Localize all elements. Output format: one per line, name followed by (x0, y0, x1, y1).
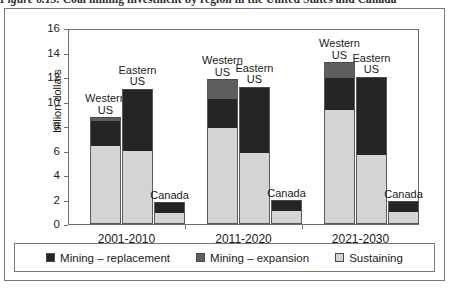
y-tick-label: 10 (34, 97, 60, 109)
legend-swatch-icon (46, 253, 55, 262)
bar-canada (271, 200, 302, 225)
segment-expansion (207, 79, 238, 99)
legend-item: Mining – expansion (196, 252, 309, 264)
bar-western-us (207, 79, 238, 224)
segment-sustaining (239, 153, 270, 224)
segment-sustaining (154, 213, 185, 224)
bar-western-us (90, 117, 121, 224)
bar-western-us (324, 62, 355, 224)
legend-item: Sustaining (335, 252, 403, 264)
figure-caption-number: Figure 6.13. (0, 0, 60, 5)
segment-replacement (90, 121, 121, 146)
y-tick-label: 14 (34, 48, 60, 60)
y-tick-label: 12 (34, 72, 60, 84)
y-tick-label: 4 (34, 170, 60, 182)
y-tick-label: 8 (34, 121, 60, 133)
segment-expansion (324, 62, 355, 78)
segment-sustaining (324, 110, 355, 224)
segment-replacement (388, 201, 419, 212)
x-tick-mark (302, 225, 303, 229)
y-tick-mark (64, 225, 68, 226)
y-tick-label: 6 (34, 146, 60, 158)
segment-replacement (239, 87, 270, 153)
legend-item-label: Mining – replacement (60, 252, 170, 264)
legend-item-label: Sustaining (349, 252, 403, 264)
bar-label: Eastern US (112, 65, 164, 87)
bar-eastern-us (239, 87, 270, 224)
segment-replacement (154, 202, 185, 213)
legend-swatch-icon (196, 253, 205, 262)
x-tick-mark (185, 225, 186, 229)
legend-item: Mining – replacement (46, 252, 170, 264)
segment-sustaining (388, 212, 419, 224)
segment-replacement (207, 99, 238, 128)
legend-item-label: Mining – expansion (210, 252, 309, 264)
bar-label: Western US (314, 38, 366, 60)
chart-legend: Mining – replacementMining – expansionSu… (14, 243, 435, 272)
bar-label: Western US (197, 55, 249, 77)
segment-replacement (122, 89, 153, 150)
figure-frame: billion dollars 0246810121416 Western US… (4, 8, 445, 281)
segment-expansion (90, 117, 121, 121)
segment-sustaining (271, 211, 302, 224)
segment-replacement (271, 200, 302, 211)
segment-replacement (356, 77, 387, 155)
y-tick-label: 16 (34, 23, 60, 35)
figure-caption: Figure 6.13. Coal mining investment by r… (0, 0, 450, 7)
figure-caption-text: Coal mining investment by region in the … (63, 0, 397, 5)
legend-swatch-icon (335, 253, 344, 262)
bar-canada (154, 202, 185, 224)
segment-replacement (324, 78, 355, 110)
plot-area: Western USEastern USCanadaWestern USEast… (68, 29, 419, 225)
bar-eastern-us (122, 89, 153, 224)
segment-sustaining (356, 155, 387, 224)
bar-canada (388, 201, 419, 224)
y-tick-label: 0 (34, 219, 60, 231)
y-tick-label: 2 (34, 195, 60, 207)
segment-sustaining (90, 146, 121, 224)
segment-sustaining (122, 151, 153, 225)
segment-sustaining (207, 128, 238, 224)
bar-eastern-us (356, 77, 387, 224)
